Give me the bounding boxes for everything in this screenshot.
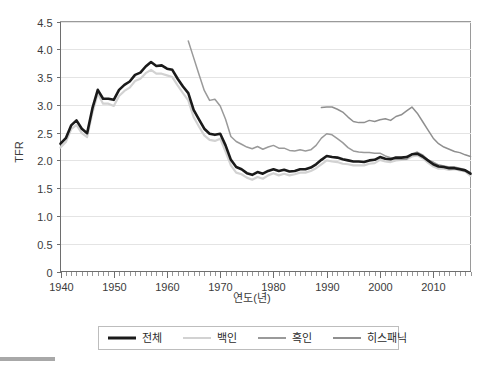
y-tick-label: 1.0: [37, 211, 52, 223]
page-edge-bar: [0, 357, 55, 361]
x-tick-label: 1990: [315, 281, 339, 293]
plot-area-frame: [61, 22, 471, 272]
x-tick-label: 1970: [208, 281, 232, 293]
x-tick-label: 2010: [421, 281, 445, 293]
legend: 전체백인흑인히스패닉: [99, 327, 408, 350]
chart-canvas: 00.51.01.52.02.53.03.54.04.5 19401950196…: [0, 0, 491, 366]
y-tick-label: 0: [46, 267, 52, 279]
x-tick-label: 1960: [155, 281, 179, 293]
x-tick-label: 2000: [368, 281, 392, 293]
y-axis-title: TFR: [13, 141, 25, 162]
legend-label: 히스패닉: [367, 331, 407, 344]
x-tick-label: 1950: [102, 281, 126, 293]
y-tick-label: 3.0: [37, 100, 52, 112]
x-tick-label: 1940: [49, 281, 73, 293]
x-axis-title: 연도(년): [233, 292, 270, 304]
y-tick-label: 1.5: [37, 183, 52, 195]
y-tick-label: 0.5: [37, 239, 52, 251]
y-tick-label: 2.0: [37, 155, 52, 167]
legend-label: 흑인: [292, 331, 312, 344]
y-tick-label: 3.5: [37, 72, 52, 84]
tfr-line-chart: 00.51.01.52.02.53.03.54.04.5 19401950196…: [0, 0, 491, 366]
y-tick-label: 4.5: [37, 17, 52, 29]
legend-label: 백인: [217, 332, 237, 344]
x-tick-label: 1980: [261, 281, 285, 293]
y-tick-label: 2.5: [37, 128, 52, 140]
y-tick-label: 4.0: [37, 44, 52, 56]
legend-label: 전체: [142, 332, 162, 344]
